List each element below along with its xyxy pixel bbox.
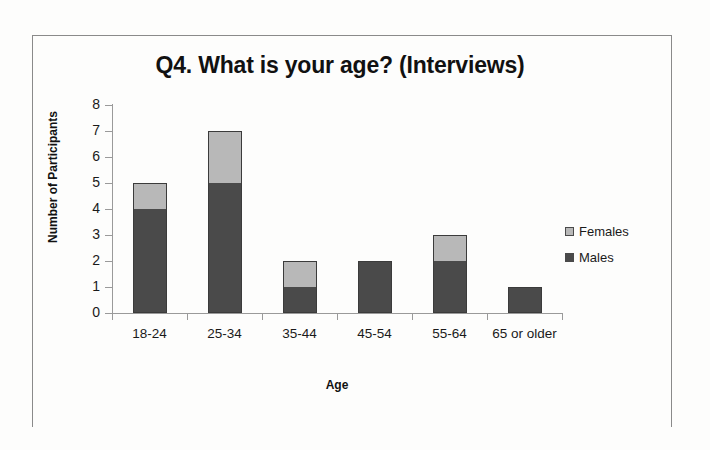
- y-axis-tick: [105, 157, 112, 158]
- x-axis-category-label: 65 or older: [487, 326, 562, 342]
- bar-segment-males[interactable]: [358, 261, 392, 313]
- y-axis-tick: [105, 209, 112, 210]
- bar-segment-females[interactable]: [433, 235, 467, 261]
- y-axis-tick-label: 8: [74, 96, 100, 112]
- y-axis-tick: [105, 287, 112, 288]
- chart-legend: FemalesMales: [565, 224, 629, 276]
- legend-item[interactable]: Males: [565, 250, 629, 265]
- y-axis-tick-label: 7: [74, 122, 100, 138]
- bar-stack[interactable]: [508, 287, 542, 313]
- legend-swatch-icon: [565, 253, 574, 262]
- x-axis-tick: [112, 313, 113, 320]
- y-axis-tick-label: 5: [74, 174, 100, 190]
- legend-label: Females: [579, 224, 629, 239]
- y-axis-tick-label: 0: [74, 304, 100, 320]
- x-axis-tick: [262, 313, 263, 320]
- x-axis-tick: [187, 313, 188, 320]
- legend-item[interactable]: Females: [565, 224, 629, 239]
- y-axis-tick-label: 3: [74, 226, 100, 242]
- y-axis-tick-label: 2: [74, 252, 100, 268]
- x-axis-category-label: 18-24: [112, 326, 187, 342]
- bar-stack[interactable]: [208, 131, 242, 313]
- y-axis-tick: [105, 105, 112, 106]
- y-axis-tick: [105, 235, 112, 236]
- x-axis-tick: [487, 313, 488, 320]
- x-axis-category-label: 45-54: [337, 326, 412, 342]
- y-axis-tick: [105, 131, 112, 132]
- bar-stack[interactable]: [433, 235, 467, 313]
- y-axis-tick-label: 6: [74, 148, 100, 164]
- x-axis-category-label: 55-64: [412, 326, 487, 342]
- bar-stack[interactable]: [133, 183, 167, 313]
- y-axis-title: Number of Participants: [46, 97, 60, 257]
- bar-segment-females[interactable]: [133, 183, 167, 209]
- y-axis-tick: [105, 313, 112, 314]
- bar-stack[interactable]: [358, 261, 392, 313]
- bar-stack[interactable]: [283, 261, 317, 313]
- y-axis-tick-label: 4: [74, 200, 100, 216]
- bar-segment-males[interactable]: [433, 261, 467, 313]
- chart-title: Q4. What is your age? (Interviews): [60, 52, 620, 79]
- bar-segment-males[interactable]: [283, 287, 317, 313]
- y-axis-tick: [105, 183, 112, 184]
- bar-segment-males[interactable]: [208, 183, 242, 313]
- bar-segment-females[interactable]: [208, 131, 242, 183]
- x-axis-category-label: 35-44: [262, 326, 337, 342]
- legend-swatch-icon: [565, 227, 574, 236]
- y-axis-tick-label: 1: [74, 278, 100, 294]
- x-axis-tick: [562, 313, 563, 320]
- x-axis-title: Age: [112, 378, 562, 392]
- bar-segment-females[interactable]: [283, 261, 317, 287]
- legend-label: Males: [579, 250, 614, 265]
- bar-segment-males[interactable]: [133, 209, 167, 313]
- y-axis-tick: [105, 261, 112, 262]
- x-axis-tick: [412, 313, 413, 320]
- x-axis-category-label: 25-34: [187, 326, 262, 342]
- bar-segment-males[interactable]: [508, 287, 542, 313]
- plot-area: [112, 105, 562, 313]
- x-axis-tick: [337, 313, 338, 320]
